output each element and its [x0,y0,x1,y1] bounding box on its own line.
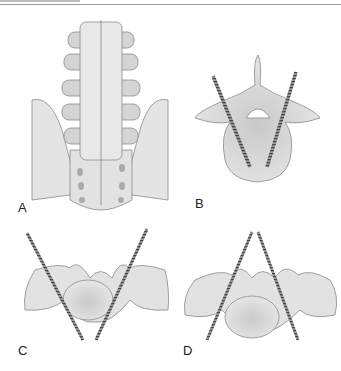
panel-a-spine [32,20,168,210]
panel-label-a: A [18,200,27,215]
panel-b-vertebra [195,55,320,182]
figure-illustration [0,0,341,371]
panel-label-b: B [195,196,204,211]
panel-label-c: C [18,343,27,358]
panel-label-d: D [183,343,192,358]
panel-d-sacrum [184,232,336,340]
panel-c-sacrum [24,229,168,340]
